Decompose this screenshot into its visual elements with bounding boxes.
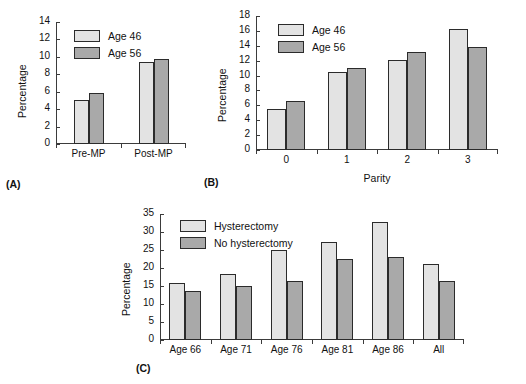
bar-group	[413, 214, 464, 340]
panel-a-legend: Age 46Age 56	[74, 30, 141, 64]
panel-a-category-labels: Pre-MPPost-MP	[56, 148, 186, 159]
bar-no-hysterectomy-age-71	[236, 286, 252, 340]
y-tick-label: 12	[239, 54, 250, 66]
legend-item: Age 56	[278, 41, 345, 53]
legend-swatch-icon	[74, 30, 100, 42]
bar-hysterectomy-age-76	[271, 250, 287, 340]
bar-group	[312, 214, 363, 340]
bar-group	[363, 214, 414, 340]
y-tick-label: 10	[39, 50, 50, 62]
bar-age-46-post-mp	[139, 62, 154, 144]
y-tick-label: 2	[244, 128, 250, 140]
legend-swatch-icon	[74, 47, 100, 59]
panel-a-y-axis-label: Percentage	[16, 64, 28, 118]
x-category-label: Age 66	[160, 344, 211, 355]
bar-hysterectomy-age-86	[372, 222, 388, 340]
x-category-label: Age 71	[211, 344, 262, 355]
x-category-label: 0	[256, 154, 317, 165]
legend-label: No hysterectomy	[214, 237, 293, 249]
y-tick-label: 2	[44, 120, 50, 132]
bar-age-46-3	[449, 29, 468, 150]
legend-item: Age 46	[74, 30, 141, 42]
panel-tag-a: (A)	[6, 178, 21, 190]
panel-b-legend: Age 46Age 56	[278, 24, 345, 58]
bar-age-56-2	[407, 52, 426, 150]
y-tick-label: 18	[239, 9, 250, 21]
y-tick-label: 14	[239, 39, 250, 51]
y-tick-label: 25	[143, 243, 154, 255]
y-tick-label: 35	[143, 207, 154, 219]
x-category-label: Post-MP	[121, 148, 186, 159]
panel-b: Percentage 024681012141618 0123 Parity A…	[200, 4, 526, 200]
y-tick-label: 4	[44, 102, 50, 114]
y-tick-label: 30	[143, 225, 154, 237]
x-category-label: 2	[377, 154, 438, 165]
y-tick-label: 8	[44, 67, 50, 79]
y-tick-label: 8	[244, 83, 250, 95]
y-tick-label: 10	[239, 69, 250, 81]
x-category-label: Pre-MP	[56, 148, 121, 159]
legend-item: No hysterectomy	[180, 237, 293, 249]
y-tick-label: 6	[44, 85, 50, 97]
bar-age-56-pre-mp	[89, 93, 104, 144]
bar-age-46-0	[267, 109, 286, 150]
legend-item: Age 56	[74, 47, 141, 59]
bar-age-56-0	[286, 101, 305, 150]
bar-hysterectomy-age-71	[220, 274, 236, 340]
y-tick-label: 4	[244, 113, 250, 125]
legend-label: Age 46	[108, 30, 141, 42]
bar-hysterectomy-all	[423, 264, 439, 340]
y-tick-label: 20	[143, 261, 154, 273]
x-category-label: All	[413, 344, 464, 355]
bar-no-hysterectomy-all	[439, 281, 455, 340]
panel-c-y-axis-label: Percentage	[120, 262, 132, 316]
y-tick-label: 5	[148, 315, 154, 327]
panel-c-category-labels: Age 66Age 71Age 76Age 81Age 86All	[160, 344, 464, 355]
legend-item: Age 46	[278, 24, 345, 36]
bar-no-hysterectomy-age-76	[287, 281, 303, 340]
x-category-label: 1	[317, 154, 378, 165]
y-tick-label: 0	[148, 333, 154, 345]
bar-no-hysterectomy-age-86	[388, 257, 404, 340]
legend-label: Age 56	[312, 41, 345, 53]
bar-group	[377, 16, 438, 150]
y-tick-label: 0	[244, 143, 250, 155]
panel-b-category-labels: 0123	[256, 154, 498, 165]
panel-tag-c: (C)	[136, 362, 151, 374]
panel-c-legend: HysterectomyNo hysterectomy	[180, 220, 293, 254]
y-tick-label: 10	[143, 297, 154, 309]
panel-b-y-axis-label: Percentage	[216, 68, 228, 122]
y-tick-label: 16	[239, 24, 250, 36]
panel-a: Percentage 02468101214 Pre-MPPost-MP Age…	[0, 8, 200, 198]
legend-label: Hysterectomy	[214, 220, 278, 232]
x-category-label: 3	[438, 154, 499, 165]
panel-tag-b: (B)	[204, 176, 219, 188]
legend-swatch-icon	[278, 41, 304, 53]
bar-group	[438, 16, 499, 150]
bar-age-56-post-mp	[154, 59, 169, 144]
legend-swatch-icon	[180, 237, 206, 249]
y-tick-label: 12	[39, 32, 50, 44]
bar-no-hysterectomy-age-81	[337, 259, 353, 340]
figure-three-panel-bar-charts: Percentage 02468101214 Pre-MPPost-MP Age…	[0, 0, 526, 384]
bar-no-hysterectomy-age-66	[185, 291, 201, 340]
y-tick-label: 14	[39, 15, 50, 27]
legend-label: Age 56	[108, 47, 141, 59]
bar-age-56-3	[468, 47, 487, 150]
bar-age-46-2	[388, 60, 407, 150]
bar-age-46-1	[328, 72, 347, 150]
x-category-label: Age 81	[312, 344, 363, 355]
legend-label: Age 46	[312, 24, 345, 36]
bar-age-56-1	[347, 68, 366, 150]
panel-b-x-axis-label: Parity	[256, 172, 498, 184]
y-tick-label: 15	[143, 279, 154, 291]
bar-hysterectomy-age-81	[321, 242, 337, 340]
panel-c: Percentage 05101520253035 Age 66Age 71Ag…	[100, 204, 500, 384]
bar-hysterectomy-age-66	[169, 283, 185, 340]
legend-swatch-icon	[180, 220, 206, 232]
legend-swatch-icon	[278, 24, 304, 36]
y-tick-label: 6	[244, 98, 250, 110]
x-category-label: Age 86	[363, 344, 414, 355]
legend-item: Hysterectomy	[180, 220, 293, 232]
x-category-label: Age 76	[261, 344, 312, 355]
